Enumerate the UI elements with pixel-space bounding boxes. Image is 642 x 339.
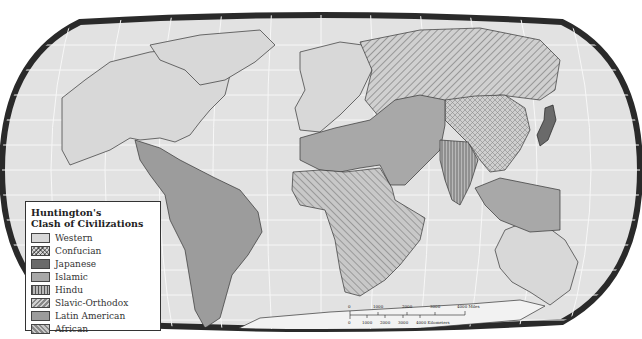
african-swatch bbox=[31, 324, 50, 334]
scale-miles-1000: 1000 bbox=[373, 304, 383, 309]
scale-km-3000: 3000 bbox=[398, 320, 408, 325]
latin-american-swatch bbox=[31, 311, 50, 321]
scale-miles-3000: 3000 bbox=[430, 304, 440, 309]
scale-miles-2000: 2000 bbox=[402, 304, 412, 309]
legend-label: Hindu bbox=[55, 285, 83, 295]
legend-label: Japanese bbox=[55, 259, 96, 269]
legend-item-islamic: Islamic bbox=[31, 271, 155, 284]
legend-title: Huntington's Clash of Civilizations bbox=[31, 207, 155, 229]
legend-label: Slavic-Orthodox bbox=[55, 298, 128, 308]
scale-km-4000: 4000 Kilometers bbox=[416, 320, 450, 325]
scale-km-0: 0 bbox=[348, 320, 351, 325]
confucian-swatch bbox=[31, 246, 50, 256]
hindu-swatch bbox=[31, 285, 50, 295]
legend-item-slavic-orthodox: Slavic-Orthodox bbox=[31, 297, 155, 310]
scale-km-1000: 1000 bbox=[362, 320, 372, 325]
legend-item-confucian: Confucian bbox=[31, 245, 155, 258]
scale-bar: 0 1000 2000 3000 4000 Miles 0 1000 2000 … bbox=[345, 300, 495, 330]
legend-item-hindu: Hindu bbox=[31, 284, 155, 297]
slavic-orthodox-swatch bbox=[31, 298, 50, 308]
legend-label: Confucian bbox=[55, 246, 101, 256]
western-swatch bbox=[31, 233, 50, 243]
islamic-swatch bbox=[31, 272, 50, 282]
legend-item-western: Western bbox=[31, 232, 155, 245]
map-legend: Huntington's Clash of Civilizations West… bbox=[25, 201, 161, 331]
scale-miles-4000: 4000 Miles bbox=[457, 304, 480, 309]
legend-label: Western bbox=[55, 233, 93, 243]
legend-label: Latin American bbox=[55, 311, 125, 321]
legend-title-line2: Clash of Civilizations bbox=[31, 218, 155, 229]
legend-item-african: African bbox=[31, 323, 155, 336]
legend-label: Islamic bbox=[55, 272, 88, 282]
legend-label: African bbox=[55, 324, 88, 334]
scale-miles-0: 0 bbox=[348, 304, 351, 309]
legend-title-line1: Huntington's bbox=[31, 207, 155, 218]
legend-item-japanese: Japanese bbox=[31, 258, 155, 271]
scale-km-2000: 2000 bbox=[380, 320, 390, 325]
legend-item-latin-american: Latin American bbox=[31, 310, 155, 323]
japanese-swatch bbox=[31, 259, 50, 269]
